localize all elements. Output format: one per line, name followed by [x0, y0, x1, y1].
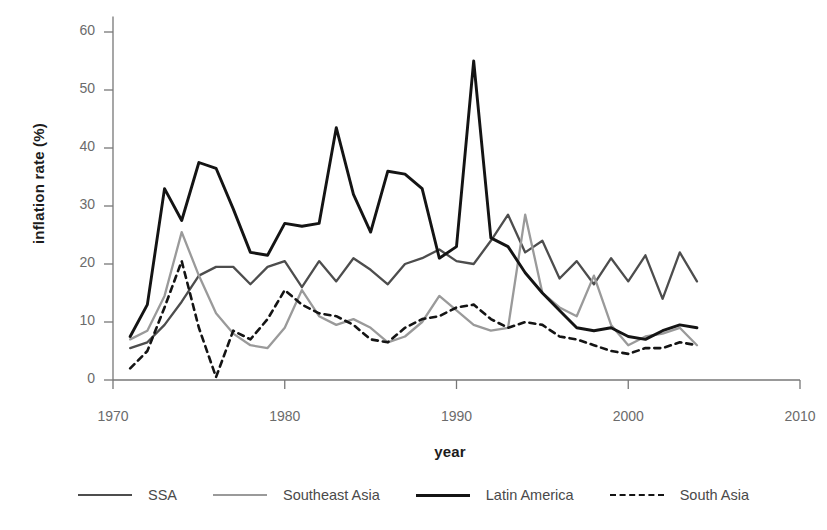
legend-swatch-icon: [610, 494, 664, 496]
legend-swatch-icon: [416, 494, 470, 497]
x-tick-label: 1980: [255, 408, 315, 424]
x-tick-label: 2000: [598, 408, 658, 424]
legend-swatch-icon: [78, 494, 132, 496]
x-tick-label: 1990: [427, 408, 487, 424]
legend-item[interactable]: SSA: [78, 487, 177, 503]
inflation-rate-line-chart: inflation rate (%) year 6050403020100 19…: [0, 0, 827, 530]
y-tick-label: 40: [55, 138, 95, 154]
x-tick-label: 2010: [770, 408, 827, 424]
y-tick-label: 30: [55, 196, 95, 212]
legend-swatch-icon: [213, 494, 267, 496]
legend-item[interactable]: Latin America: [416, 487, 574, 503]
legend-label: Southeast Asia: [283, 487, 380, 503]
x-tick-label: 1970: [83, 408, 143, 424]
series-line-latin-america: [130, 61, 697, 339]
y-tick-label: 20: [55, 254, 95, 270]
chart-legend: SSASoutheast AsiaLatin AmericaSouth Asia: [0, 487, 827, 503]
y-tick-label: 50: [55, 80, 95, 96]
plot-area: [0, 0, 827, 530]
y-tick-label: 0: [55, 370, 95, 386]
legend-label: SSA: [148, 487, 177, 503]
legend-label: Latin America: [486, 487, 574, 503]
series-line-south-asia: [130, 261, 697, 377]
legend-item[interactable]: South Asia: [610, 487, 749, 503]
y-tick-label: 60: [55, 22, 95, 38]
legend-label: South Asia: [680, 487, 749, 503]
legend-item[interactable]: Southeast Asia: [213, 487, 380, 503]
y-tick-label: 10: [55, 312, 95, 328]
